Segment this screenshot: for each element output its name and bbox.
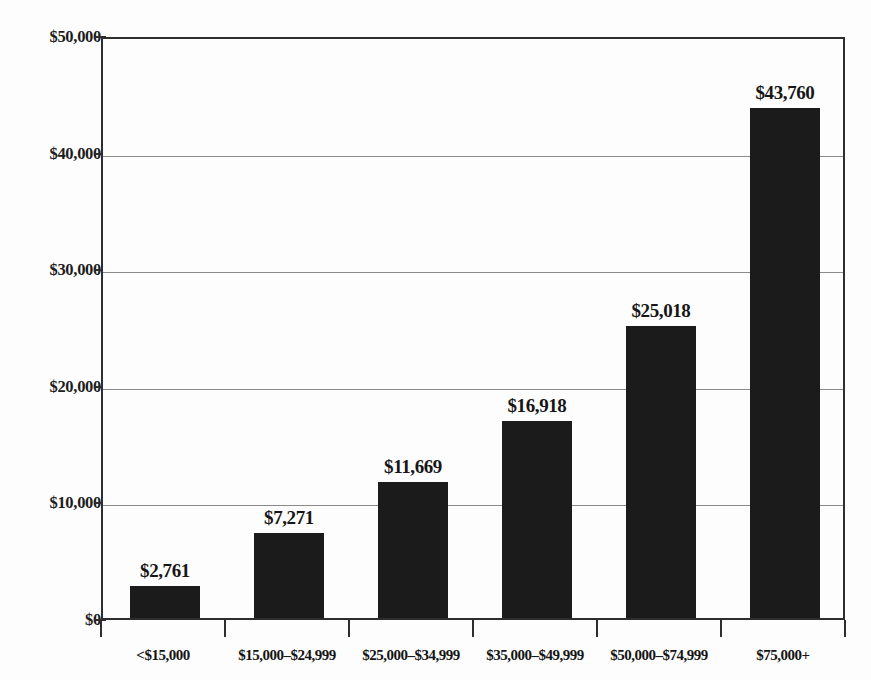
bar-value-label: $11,669 [384,456,442,478]
bar-value-label: $2,761 [140,560,190,582]
y-axis-tick-label: $0 [9,610,101,630]
bar [750,108,820,618]
bar-value-label: $25,018 [632,300,691,322]
bar-value-label: $7,271 [264,507,314,529]
x-axis-tick-mark [720,620,722,637]
x-axis-tick-mark [596,620,598,637]
x-axis-tick-mark [844,620,846,637]
x-axis-tick-mark [472,620,474,637]
bar-value-label: $16,918 [508,395,567,417]
x-axis-tick-mark [100,620,102,637]
y-axis-tick-label: $30,000 [9,260,101,280]
bar [130,586,200,618]
gridline [103,156,843,157]
gridline [103,505,843,506]
bar [254,533,324,618]
gridline [103,272,843,273]
gridline [103,389,843,390]
y-axis: $0$10,000$20,000$30,000$40,000$50,000 [0,37,101,620]
bar [626,326,696,618]
chart-page: $0$10,000$20,000$30,000$40,000$50,000 $2… [0,0,871,680]
y-axis-tick-label: $20,000 [9,377,101,397]
x-axis-category-label: <$15,000 [136,647,189,664]
x-axis-category-label: $25,000–$34,999 [362,647,460,664]
y-axis-tick-label: $50,000 [9,27,101,47]
x-axis: <$15,000$15,000–$24,999$25,000–$34,999$3… [101,620,845,680]
bar-value-label: $43,760 [756,82,815,104]
x-axis-tick-mark [224,620,226,637]
x-axis-category-label: $35,000–$49,999 [486,647,584,664]
x-axis-category-label: $15,000–$24,999 [238,647,336,664]
x-axis-category-label: $75,000+ [756,647,809,664]
y-axis-tick-label: $10,000 [9,493,101,513]
cut-off-caption [0,0,871,13]
bar [378,482,448,618]
y-axis-tick-label: $40,000 [9,144,101,164]
bar [502,421,572,618]
x-axis-category-label: $50,000–$74,999 [610,647,708,664]
plot-area: $2,761$7,271$11,669$16,918$25,018$43,760 [101,37,845,620]
x-axis-tick-mark [348,620,350,637]
